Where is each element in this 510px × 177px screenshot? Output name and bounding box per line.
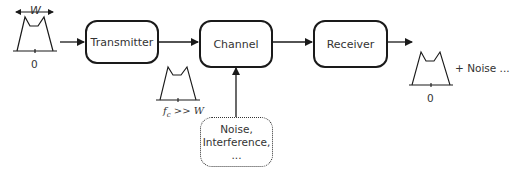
passband-spectrum-icon [156,67,200,102]
noise-line-1: Noise, [220,123,252,136]
channel-label: Channel [213,38,258,51]
transmitter-label: Transmitter [91,36,154,49]
channel-block: Channel [199,20,273,68]
noise-line-2: Interference, [203,136,271,149]
noise-interference-source: Noise, Interference, ... [200,117,273,167]
noise-line-3: ... [231,149,241,162]
receiver-block: Receiver [313,20,388,68]
input-zero-label: 0 [31,58,38,70]
output-noise-label: + Noise ... [455,62,510,74]
output-zero-label: 0 [427,92,434,104]
bandwidth-label: W [30,4,41,17]
output-spectrum-icon [409,52,453,87]
carrier-frequency-label: fc >> W [163,105,204,119]
transmitter-block: Transmitter [85,20,159,64]
input-spectrum-icon [13,12,57,53]
receiver-label: Receiver [327,38,375,51]
